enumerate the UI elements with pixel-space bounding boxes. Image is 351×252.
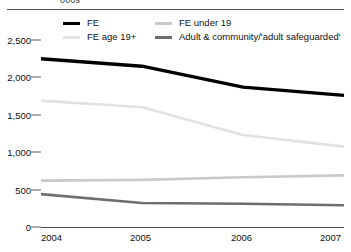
legend-label: FE: [87, 18, 99, 28]
x-axis-tick-label: 2005: [130, 232, 151, 243]
plot-area: 05001,0001,5002,0002,5002004200520062007: [41, 40, 344, 227]
legend-label: FE under 19: [179, 18, 231, 28]
y-axis-tick-mark: [31, 77, 41, 78]
x-axis-tick-label: 2007: [320, 232, 341, 243]
series-line: [41, 101, 344, 147]
legend-swatch-icon: [155, 22, 172, 25]
legend-item[interactable]: FE under 19: [155, 18, 231, 28]
chart-container: 000s FEFE under 19FE age 19+Adult & comm…: [0, 0, 351, 252]
x-axis-tick-label: 2004: [41, 232, 62, 243]
y-axis-tick-mark: [31, 152, 41, 153]
series-line: [41, 59, 344, 96]
legend-swatch-icon: [155, 36, 172, 39]
legend-swatch-icon: [63, 36, 80, 39]
y-axis-tick-mark: [31, 40, 41, 41]
y-axis-tick-mark: [31, 189, 41, 190]
caption-fragment: 000s: [60, 0, 80, 5]
series-line: [41, 175, 344, 180]
legend-item[interactable]: FE: [63, 18, 99, 28]
x-axis-line: [41, 227, 344, 228]
y-axis-tick-mark: [31, 114, 41, 115]
y-axis-tick-mark: [31, 227, 41, 228]
x-axis-tick-label: 2006: [231, 232, 252, 243]
series-lines: [41, 40, 344, 227]
header-divider: [7, 9, 344, 10]
legend-swatch-icon: [63, 22, 80, 25]
series-line: [41, 194, 344, 205]
